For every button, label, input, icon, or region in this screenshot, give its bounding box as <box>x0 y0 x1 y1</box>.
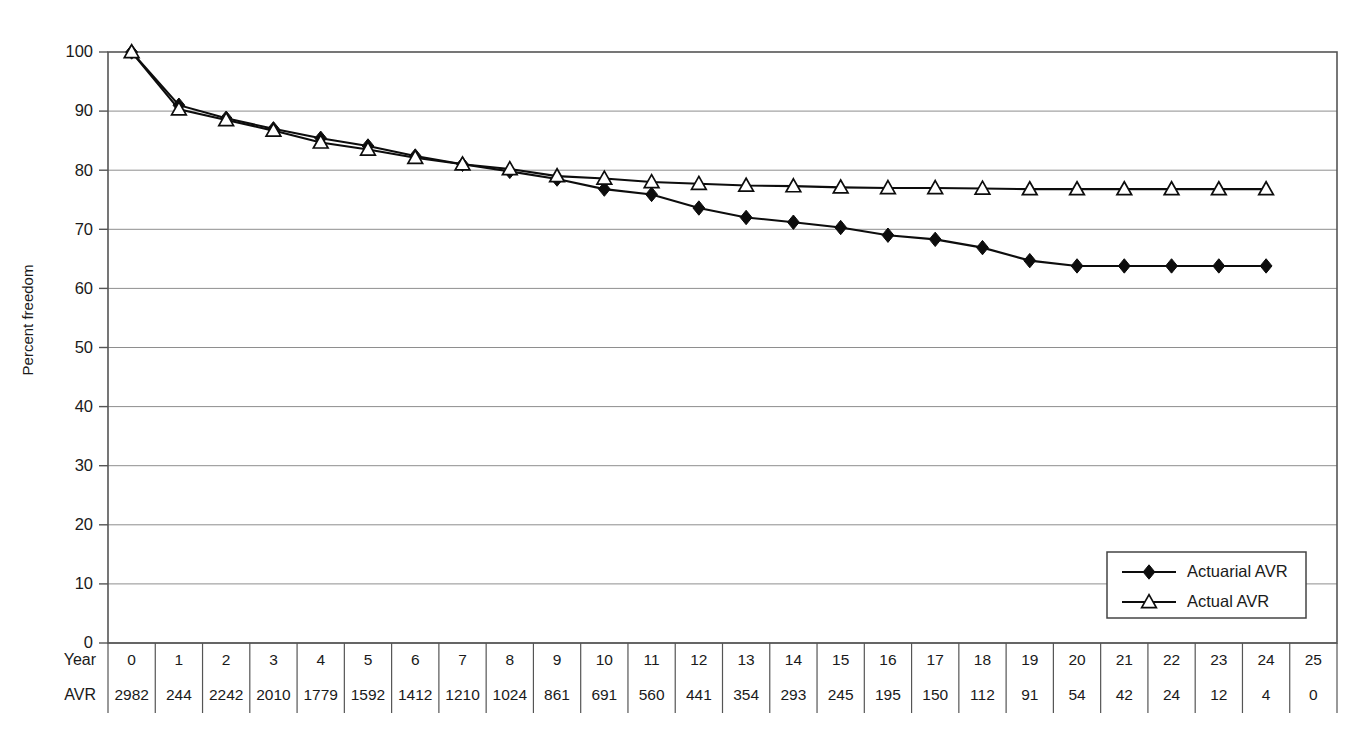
table-year-cell: 7 <box>458 651 467 668</box>
table-avr-cell: 691 <box>591 686 617 703</box>
table-avr-cell: 150 <box>922 686 948 703</box>
table-year-cell: 1 <box>175 651 184 668</box>
y-tick-label-30: 30 <box>75 456 93 474</box>
table-avr-cell: 1210 <box>445 686 480 703</box>
table-year-cell: 18 <box>974 651 991 668</box>
y-tick-label-100: 100 <box>65 42 93 60</box>
table-year-cell: 24 <box>1257 651 1275 668</box>
gridlines <box>108 111 1337 584</box>
table-year-cell: 20 <box>1068 651 1086 668</box>
table-avr-cell: 54 <box>1068 686 1086 703</box>
table-year-cell: 2 <box>222 651 231 668</box>
table-year-cell: 22 <box>1163 651 1180 668</box>
table-avr-cell: 293 <box>780 686 806 703</box>
table-year-cell: 9 <box>553 651 562 668</box>
table-avr-cell: 4 <box>1262 686 1271 703</box>
marker-diamond <box>646 187 658 201</box>
table-avr-cell: 441 <box>686 686 712 703</box>
table-avr-cell: 0 <box>1309 686 1318 703</box>
table-year-cell: 4 <box>316 651 325 668</box>
table-year-cell: 11 <box>644 651 660 668</box>
table-avr-cell: 91 <box>1021 686 1038 703</box>
y-axis: 1009080706050403020100 <box>65 42 108 651</box>
table-avr-cell: 560 <box>639 686 665 703</box>
table-year-cell: 15 <box>832 651 849 668</box>
y-tick-label-20: 20 <box>75 515 93 533</box>
y-tick-label-40: 40 <box>75 397 93 415</box>
table-year-cell: 8 <box>505 651 514 668</box>
table-year-cell: 23 <box>1210 651 1227 668</box>
marker-diamond <box>1166 259 1178 273</box>
risk-table: YearAVR012345678910111213141516171819202… <box>64 643 1337 713</box>
table-avr-cell: 2242 <box>209 686 243 703</box>
table-avr-cell: 1592 <box>351 686 385 703</box>
table-row-label-1: AVR <box>64 686 96 703</box>
table-year-cell: 14 <box>785 651 803 668</box>
marker-diamond <box>882 228 894 242</box>
table-year-cell: 25 <box>1305 651 1322 668</box>
table-avr-cell: 1024 <box>493 686 528 703</box>
marker-diamond <box>835 220 847 234</box>
y-tick-label-90: 90 <box>75 101 93 119</box>
table-year-cell: 19 <box>1021 651 1038 668</box>
table-avr-cell: 244 <box>166 686 192 703</box>
table-avr-cell: 2982 <box>114 686 148 703</box>
table-avr-cell: 112 <box>970 686 995 703</box>
table-year-cell: 12 <box>690 651 707 668</box>
table-year-cell: 5 <box>364 651 373 668</box>
y-tick-label-70: 70 <box>75 220 93 238</box>
y-axis-title: Percent freedom <box>19 265 36 376</box>
marker-diamond <box>1260 259 1272 273</box>
marker-diamond <box>1118 259 1130 273</box>
table-year-cell: 3 <box>269 651 278 668</box>
table-avr-cell: 861 <box>544 686 570 703</box>
marker-diamond <box>693 201 705 215</box>
y-tick-label-80: 80 <box>75 161 93 179</box>
legend-label-1: Actual AVR <box>1187 592 1269 610</box>
marker-diamond <box>1071 259 1083 273</box>
marker-diamond <box>1213 259 1225 273</box>
table-avr-cell: 42 <box>1116 686 1133 703</box>
table-avr-cell: 354 <box>733 686 759 703</box>
chart-legend: Actuarial AVRActual AVR <box>1107 552 1306 618</box>
y-tick-label-60: 60 <box>75 279 93 297</box>
table-year-cell: 13 <box>738 651 755 668</box>
series-line-1 <box>132 52 1266 189</box>
marker-diamond <box>1024 253 1036 267</box>
series-actuarial-avr <box>126 45 1272 273</box>
marker-diamond <box>977 240 989 254</box>
table-avr-cell: 24 <box>1163 686 1181 703</box>
kaplan-meier-freedom-chart: 1009080706050403020100 Percent freedom A… <box>0 0 1358 741</box>
table-avr-cell: 1779 <box>303 686 337 703</box>
table-row-label-0: Year <box>64 651 97 668</box>
table-year-cell: 17 <box>927 651 944 668</box>
y-tick-label-0: 0 <box>84 633 93 651</box>
marker-diamond <box>929 232 941 246</box>
marker-diamond <box>740 210 752 224</box>
table-year-cell: 6 <box>411 651 420 668</box>
table-avr-cell: 245 <box>828 686 854 703</box>
marker-diamond <box>787 215 799 229</box>
table-avr-cell: 1412 <box>398 686 432 703</box>
table-year-cell: 16 <box>879 651 896 668</box>
table-year-cell: 10 <box>596 651 614 668</box>
series-line-0 <box>132 52 1266 266</box>
table-avr-cell: 12 <box>1210 686 1227 703</box>
data-series-group <box>124 45 1273 273</box>
series-actual-avr <box>124 45 1273 195</box>
chart-figure: 1009080706050403020100 Percent freedom A… <box>0 0 1358 741</box>
table-year-cell: 21 <box>1116 651 1133 668</box>
y-tick-label-10: 10 <box>75 574 93 592</box>
table-avr-cell: 2010 <box>256 686 291 703</box>
legend-label-0: Actuarial AVR <box>1187 562 1288 580</box>
table-avr-cell: 195 <box>875 686 901 703</box>
y-tick-label-50: 50 <box>75 338 93 356</box>
table-year-cell: 0 <box>127 651 136 668</box>
